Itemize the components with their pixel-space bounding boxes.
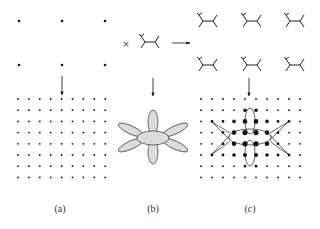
lattice-dot-icon	[72, 98, 74, 100]
lattice-dot-icon	[211, 98, 213, 100]
lattice-dot-icon	[288, 143, 290, 145]
molecule-icon	[241, 13, 261, 27]
lattice-dot-icon	[72, 165, 74, 167]
lattice-dot-icon	[17, 165, 19, 167]
lattice-dot-icon	[288, 109, 290, 111]
lattice-dot-icon	[266, 177, 268, 179]
lattice-dot-icon	[39, 154, 41, 156]
lattice-dot-icon	[211, 154, 214, 157]
lattice-dot-icon	[253, 130, 258, 135]
lattice-dot-icon	[28, 98, 30, 100]
lattice-dot-icon	[39, 132, 41, 134]
lattice-dot-icon	[277, 98, 279, 100]
lattice-dot-icon	[299, 165, 301, 167]
lattice-dot-icon	[200, 98, 202, 100]
molecule-icon	[197, 57, 217, 71]
lattice-dot-icon	[17, 177, 19, 179]
molecule-lobes	[117, 110, 190, 164]
lattice-dot-icon	[200, 132, 202, 134]
lattice-dot-icon	[72, 121, 74, 123]
lattice-dot-icon	[28, 143, 30, 145]
lattice-dot-icon	[93, 132, 95, 134]
lattice-dot-icon	[222, 177, 224, 179]
lattice-dot-icon	[277, 120, 280, 123]
lattice-dot-icon	[233, 165, 235, 167]
lattice-dot-icon	[17, 143, 19, 145]
lattice-dot-icon	[39, 143, 41, 145]
lattice-dot-icon	[211, 143, 213, 145]
lattice-dot-icon	[288, 98, 290, 100]
lattice-dot-icon	[28, 109, 30, 111]
lattice-dot-icon	[83, 109, 85, 111]
lattice-dot-icon	[277, 165, 279, 167]
lattice-dot-icon	[61, 177, 63, 179]
lattice-dot-icon	[200, 165, 202, 167]
lattice-dot-icon	[104, 154, 106, 156]
lattice-dot-icon	[17, 109, 19, 111]
lattice-dot-icon	[200, 177, 202, 179]
lattice-dot-icon	[277, 154, 280, 157]
lattice-dot-icon	[17, 132, 19, 134]
lattice-dot-icon	[233, 177, 235, 179]
lattice-dot-icon	[299, 98, 301, 100]
dense-lattice-a	[17, 98, 106, 178]
lattice-dot-icon	[232, 120, 236, 124]
lattice-dot-icon	[83, 121, 85, 123]
lattice-dot-icon	[299, 132, 301, 134]
lattice-dot-icon	[288, 132, 290, 134]
lattice-dot-icon	[265, 153, 269, 157]
lattice-dot-icon	[266, 98, 268, 100]
lattice-dot-icon	[93, 121, 95, 123]
lattice-dot-icon	[61, 143, 63, 145]
lattice-dot-icon	[50, 165, 52, 167]
lattice-dot-icon	[232, 153, 236, 157]
lattice-dot-icon	[72, 154, 74, 156]
lattice-dot-icon	[244, 98, 246, 100]
lattice-dot-icon	[17, 98, 19, 100]
lattice-dot-icon	[233, 109, 235, 111]
lattice-dot-icon	[83, 98, 85, 100]
molecule-icon	[284, 57, 304, 71]
lattice-dot-icon	[61, 165, 63, 167]
molecule-icon	[241, 57, 261, 71]
lattice-dot-icon	[93, 98, 95, 100]
lattice-dot-icon	[104, 121, 106, 123]
lattice-dot-icon	[104, 143, 106, 145]
lattice-dot-icon	[61, 98, 63, 100]
lattice-dot-icon	[50, 154, 52, 156]
lattice-dot-icon	[255, 177, 257, 179]
lattice-dot-icon	[72, 109, 74, 111]
lattice-dot-icon	[93, 165, 95, 167]
lattice-dot-icon	[83, 143, 85, 145]
lattice-dot-icon	[222, 98, 224, 100]
lattice-dot-icon	[222, 154, 225, 157]
lattice-dot-icon	[50, 98, 52, 100]
lattice-dot-icon	[72, 177, 74, 179]
lattice-dot-icon	[50, 143, 52, 145]
lattice-dot-icon	[104, 165, 106, 167]
lattice-molecule-diagram: (a) × (b) (c)	[0, 0, 320, 229]
lattice-dot-icon	[266, 165, 268, 167]
lattice-dot-icon	[277, 109, 279, 111]
lattice-dot-icon	[104, 177, 106, 179]
lattice-dot-icon	[288, 165, 290, 167]
lattice-dot-icon	[265, 120, 269, 124]
lattice-dot-icon	[244, 177, 246, 179]
lattice-dot-icon	[39, 165, 41, 167]
lattice-dot-icon	[255, 165, 258, 168]
lattice-dot-icon	[254, 108, 258, 112]
lattice-dot-icon	[200, 143, 202, 145]
lattice-dot-icon	[288, 177, 290, 179]
lattice-dot-icon	[39, 177, 41, 179]
molecule-icon	[284, 13, 304, 27]
lattice-dot-icon	[299, 143, 301, 145]
sparse-lattice	[18, 20, 107, 67]
lattice-dot-icon	[93, 109, 95, 111]
lattice-dot-icon	[61, 109, 63, 111]
panel-label-b: (b)	[147, 203, 159, 215]
lattice-dot-icon	[39, 98, 41, 100]
lattice-dot-icon	[244, 165, 247, 168]
lattice-dot-icon	[17, 121, 19, 123]
embedded-molecule-outline	[212, 108, 288, 166]
lattice-dot-icon	[50, 177, 52, 179]
